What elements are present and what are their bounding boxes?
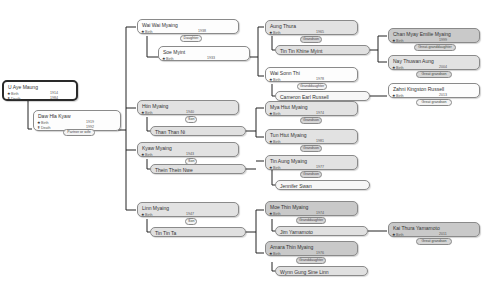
person-name: Mya Htut Myaing: [270, 104, 308, 110]
person-name: Linn Myaing: [142, 205, 169, 211]
death-row: ✝Death: [37, 125, 51, 130]
person-name: Kyaw Myaing: [142, 145, 172, 151]
relation-tag: Granddaughter: [297, 83, 327, 90]
person-card-great-grandchild[interactable]: Nay Thuwan Aung ★Birth 2004: [388, 55, 480, 70]
birth-row: ★Birth: [141, 152, 152, 157]
person-name: Kai Thura Yamamoto: [393, 225, 440, 231]
person-card-grandchild[interactable]: Tin Aung Myaing ★Birth 1977: [265, 155, 358, 170]
relation-tag: Granddaughter: [296, 217, 326, 224]
relation-tag: Great grandson: [416, 238, 452, 245]
person-card-grandchild[interactable]: Tun Htut Myaing ★Birth 1981: [265, 129, 358, 144]
birth-year: 1938: [198, 29, 206, 33]
birth-year: 1947: [186, 212, 194, 216]
person-name: Soe Myint: [163, 49, 185, 55]
person-name: Aung Thura: [270, 23, 296, 29]
birth-row: ★Birth: [269, 165, 280, 170]
person-name: Tin Tin Khine Myint: [280, 48, 322, 54]
birth-year: 1974: [316, 111, 324, 115]
person-card-root[interactable]: U Aye Maung ★Birth 1914 ✝Death 1984: [2, 80, 78, 101]
birth-row: ★Birth: [269, 251, 280, 256]
birth-year: 1914: [50, 91, 58, 95]
relation-tag: Great grandson: [416, 99, 452, 106]
birth-row: ★Birth: [392, 232, 403, 237]
person-name: Tun Htut Myaing: [270, 132, 307, 138]
person-name: Wynn Gung Sine Linn: [280, 269, 329, 275]
person-name: Chan Myay Emilie Myaing: [393, 31, 451, 37]
birth-year: 2011: [439, 232, 447, 236]
birth-year: 1976: [316, 251, 324, 255]
relation-tag: Grandson: [300, 36, 322, 43]
birth-year: 1981: [316, 139, 324, 143]
person-name: Tin Tin Ta: [155, 230, 176, 236]
birth-year: 2013: [439, 93, 447, 97]
person-name: Wai Sonn Thi: [270, 70, 300, 76]
person-card-child[interactable]: Kyaw Myaing ★Birth 1943: [137, 142, 239, 157]
person-name: Tin Aung Myaing: [270, 158, 307, 164]
person-card-great-grandchild[interactable]: Zahni Kingston Russell ★Birth 2013: [388, 83, 480, 98]
person-name: Thein Thein Nwe: [155, 167, 193, 173]
spouse-card[interactable]: Than Than Ni: [150, 126, 246, 136]
person-card-spouse[interactable]: Daw Hla Kyaw ★Birth 1919 ✝Death 1992: [33, 110, 121, 131]
birth-row: ★Birth: [141, 29, 152, 34]
spouse-card[interactable]: Jennifer Swan: [275, 180, 370, 190]
person-card-child[interactable]: Wai Wai Myaing ★Birth 1938: [137, 19, 239, 34]
relation-tag: Grandson: [300, 117, 322, 124]
person-card-child-spouse[interactable]: Soe Myint ★Birth 1933: [158, 46, 250, 61]
person-card-great-grandchild[interactable]: Kai Thura Yamamoto ★Birth 2011: [388, 222, 480, 237]
birth-year: 1919: [86, 120, 94, 124]
birth-row: ★Birth: [392, 65, 403, 70]
birth-row: ★Birth: [269, 77, 280, 82]
birth-year: 1974: [316, 211, 324, 215]
person-card-grandchild[interactable]: Moe Thin Myaing ★Birth 1974: [265, 201, 358, 216]
birth-row: ★Birth: [269, 111, 280, 116]
person-card-grandchild[interactable]: Amara Thin Myaing ★Birth 1976: [265, 241, 358, 256]
person-card-great-grandchild[interactable]: Chan Myay Emilie Myaing ★Birth 1999: [388, 28, 480, 43]
birth-year: 1933: [207, 56, 215, 60]
birth-row: ★Birth: [392, 93, 403, 98]
birth-row: ★Birth: [269, 211, 280, 216]
birth-row: ★Birth: [162, 56, 173, 61]
spouse-card[interactable]: Tin Tin Ta: [150, 227, 246, 237]
birth-year: 1999: [439, 38, 447, 42]
spouse-card[interactable]: Tin Tin Khine Myint: [275, 45, 370, 55]
person-name: Jennifer Swan: [280, 183, 312, 189]
birth-row: ★Birth: [392, 38, 403, 43]
birth-year: 1943: [186, 152, 194, 156]
relation-tag: Daughter: [180, 35, 202, 42]
person-card-grandchild[interactable]: Wai Sonn Thi ★Birth 1978: [265, 67, 358, 82]
relation-tag: Grandson: [300, 145, 322, 152]
person-card-grandchild[interactable]: Mya Htut Myaing ★Birth 1974: [265, 101, 358, 116]
family-tree: U Aye Maung ★Birth 1914 ✝Death 1984 Daw …: [0, 0, 503, 292]
person-name: Wai Wai Myaing: [142, 22, 178, 28]
person-name: Than Than Ni: [155, 129, 185, 135]
person-name: Moe Thin Myaing: [270, 204, 308, 210]
person-name: Htin Myaing: [142, 103, 168, 109]
person-name: Nay Thuwan Aung: [393, 58, 434, 64]
birth-row: ★Birth: [269, 30, 280, 35]
relation-tag: Son: [185, 116, 197, 123]
spouse-card[interactable]: Cameron Earl Russell: [275, 91, 370, 101]
death-row: ✝Death: [7, 96, 21, 101]
spouse-card[interactable]: Thein Thein Nwe: [150, 164, 246, 174]
person-name: U Aye Maung: [8, 84, 38, 90]
relation-tag: Great-granddaughter: [414, 44, 456, 51]
death-year: 1984: [50, 96, 58, 100]
person-card-grandchild[interactable]: Aung Thura ★Birth 1965: [265, 20, 358, 35]
relation-tag: Son: [185, 218, 197, 225]
relation-tag: Partner or wife: [63, 129, 95, 136]
person-name: Cameron Earl Russell: [280, 94, 329, 100]
spouse-card[interactable]: Jim Yamamoto: [275, 226, 368, 236]
person-card-child[interactable]: Linn Myaing ★Birth 1947: [137, 202, 239, 217]
birth-year: 1940: [186, 110, 194, 114]
spouse-card[interactable]: Wynn Gung Sine Linn: [275, 266, 368, 276]
birth-year: 1978: [316, 77, 324, 81]
relation-tag: Great grandson: [416, 71, 452, 78]
person-name: Daw Hla Kyaw: [38, 113, 71, 119]
person-card-child[interactable]: Htin Myaing ★Birth 1940: [137, 100, 239, 115]
birth-year: 1965: [316, 30, 324, 34]
birth-row: ★Birth: [269, 139, 280, 144]
person-name: Jim Yamamoto: [280, 229, 313, 235]
relation-tag: Granddaughter: [296, 257, 326, 264]
birth-row: ★Birth: [141, 110, 152, 115]
person-name: Zahni Kingston Russell: [393, 86, 444, 92]
